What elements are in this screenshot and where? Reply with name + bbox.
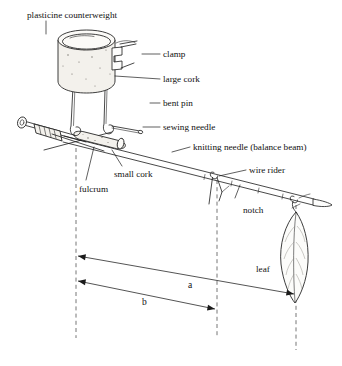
- diagram-canvas: plasticine counterweight clamp large cor…: [0, 0, 342, 366]
- label-large-cork: large cork: [163, 74, 200, 84]
- large-cork-speck-1: [67, 54, 68, 55]
- large-cork-speck-5: [71, 73, 72, 74]
- large-cork-speck-6: [86, 79, 87, 80]
- large-cork-speck-7: [105, 49, 106, 50]
- cork-speck-3: [101, 137, 102, 138]
- label-dimension-b: b: [142, 297, 147, 307]
- label-wire-rider: wire rider: [249, 165, 285, 175]
- bent-pin-head: [138, 130, 143, 134]
- label-clamp: clamp: [163, 49, 186, 59]
- label-sewing-needle: sewing needle: [163, 122, 215, 132]
- label-leaf: leaf: [256, 264, 271, 274]
- large-cork-speck-4: [99, 67, 100, 68]
- label-plasticine-counterweight: plasticine counterweight: [27, 10, 118, 20]
- large-cork-speck-12: [64, 46, 65, 47]
- cork-speck-4: [108, 142, 109, 143]
- cork-speck-7: [83, 134, 84, 135]
- label-knitting-needle: knitting needle (balance beam): [193, 142, 307, 152]
- label-fulcrum: fulcrum: [79, 184, 108, 194]
- label-small-cork: small cork: [114, 169, 153, 179]
- label-notch: notch: [243, 205, 264, 215]
- large-cork-speck-11: [110, 74, 111, 75]
- large-cork-speck-10: [84, 50, 85, 51]
- leaf-balance-diagram: plasticine counterweight clamp large cor…: [0, 0, 342, 366]
- large-cork-speck-2: [78, 61, 79, 62]
- plasticine-counterweight-mass: [63, 34, 111, 49]
- cork-speck-5: [99, 144, 100, 145]
- label-bent-pin: bent pin: [163, 98, 193, 108]
- cork-speck-6: [113, 139, 114, 140]
- large-cork-speck-3: [91, 56, 92, 57]
- cork-speck-2: [94, 140, 95, 141]
- cork-speck-1: [87, 137, 88, 138]
- large-cork-speck-8: [63, 66, 64, 67]
- large-cork-speck-9: [95, 86, 96, 87]
